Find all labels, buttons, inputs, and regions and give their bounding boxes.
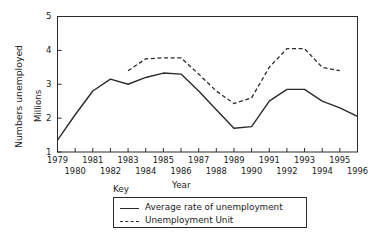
- x-tick-label: 1987: [186, 155, 212, 165]
- x-tick-label: 1988: [203, 166, 229, 176]
- x-tick-label: 1980: [62, 166, 88, 176]
- x-tick-label: 1996: [345, 166, 371, 176]
- x-tick-label: 1990: [239, 166, 265, 176]
- y-tick-label: 4: [42, 45, 52, 55]
- y-tick-label: 2: [42, 113, 52, 123]
- chart-figure: Numbers unemployed Millions 12345 197919…: [0, 0, 374, 241]
- x-tick-label: 1993: [292, 155, 318, 165]
- x-tick-marks: [58, 148, 358, 152]
- x-tick-label: 1995: [327, 155, 353, 165]
- data-series-line: [128, 49, 340, 104]
- legend-item-label: Unemployment Unit: [145, 215, 233, 225]
- legend-item-label: Average rate of unemployment: [145, 202, 283, 212]
- x-tick-label: 1992: [274, 166, 300, 176]
- x-tick-label: 1985: [150, 155, 176, 165]
- x-axis-title: Year: [172, 180, 191, 190]
- legend-box: Average rate of unemployment Unemploymen…: [113, 197, 307, 228]
- x-tick-label: 1984: [133, 166, 159, 176]
- y-tick-label: 5: [42, 11, 52, 21]
- x-tick-label: 1981: [80, 155, 106, 165]
- y-tick-marks: [58, 17, 62, 153]
- legend-title: Key: [113, 184, 129, 194]
- x-tick-label: 1989: [221, 155, 247, 165]
- x-tick-label: 1979: [45, 155, 71, 165]
- x-tick-label: 1991: [256, 155, 282, 165]
- legend-line-solid-icon: [120, 208, 139, 209]
- x-tick-label: 1986: [168, 166, 194, 176]
- data-series-group: [58, 49, 358, 140]
- x-tick-label: 1994: [309, 166, 335, 176]
- y-tick-label: 3: [42, 79, 52, 89]
- x-tick-label: 1983: [115, 155, 141, 165]
- legend-line-dashed-icon: [120, 221, 139, 222]
- x-tick-label: 1982: [97, 166, 123, 176]
